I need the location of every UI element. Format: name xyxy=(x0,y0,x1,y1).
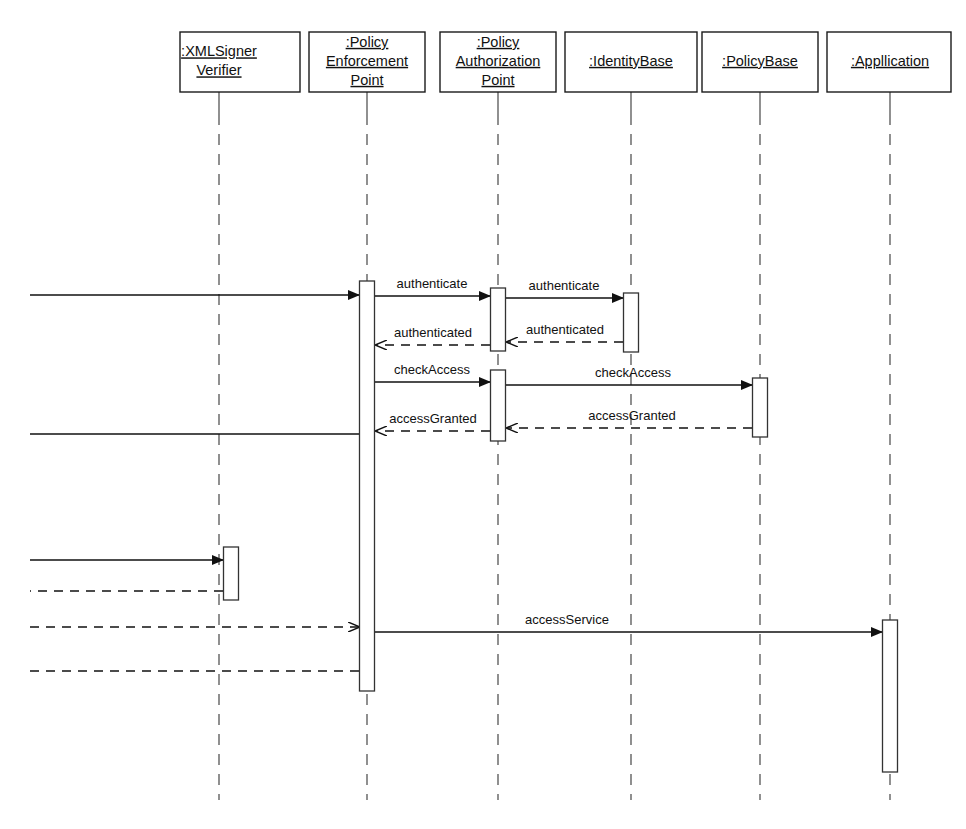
message-label-msg-accessgranted-2: accessGranted xyxy=(389,411,476,426)
participant-label-pep: Point xyxy=(350,72,383,88)
activation-bar-pep[interactable] xyxy=(360,281,375,691)
participant-application[interactable]: :Appllication xyxy=(827,32,951,92)
activation-bar-policybase[interactable] xyxy=(753,378,768,437)
participant-label-application: :Appllication xyxy=(851,53,929,69)
participant-label-pap: :Policy xyxy=(477,34,520,50)
message-msg-accessservice[interactable]: accessService xyxy=(375,612,882,632)
message-msg-authenticated-2[interactable]: authenticated xyxy=(376,325,490,345)
message-label-msg-authenticate-2: authenticate xyxy=(529,278,600,293)
activation-bar-pap[interactable] xyxy=(491,370,506,441)
participant-pep[interactable]: :PolicyEnforcementPoint xyxy=(309,32,425,92)
participant-label-policybase: :PolicyBase xyxy=(722,53,798,69)
message-label-msg-authenticated-1: authenticated xyxy=(526,322,604,337)
message-msg-authenticate-1[interactable]: authenticate xyxy=(375,276,490,296)
participant-identitybase[interactable]: :IdentityBase xyxy=(565,32,697,92)
message-label-msg-checkaccess-1: checkAccess xyxy=(394,362,470,377)
participant-xmlsigner[interactable]: :XMLSignerVerifier xyxy=(180,32,300,92)
message-msg-accessgranted-1[interactable]: accessGranted xyxy=(507,408,752,428)
participant-pap[interactable]: :PolicyAuthorizationPoint xyxy=(440,32,556,92)
messages-layer: authenticateauthenticateauthenticatedaut… xyxy=(30,276,882,671)
activations-layer xyxy=(224,281,898,772)
message-msg-authenticated-1[interactable]: authenticated xyxy=(507,322,623,342)
message-label-msg-accessgranted-1: accessGranted xyxy=(588,408,675,423)
activation-bar-xmlsigner[interactable] xyxy=(224,547,239,600)
lifelines-layer xyxy=(219,92,890,800)
sequence-diagram-svg: authenticateauthenticateauthenticatedaut… xyxy=(0,0,966,829)
message-msg-accessgranted-2[interactable]: accessGranted xyxy=(376,411,490,431)
message-label-msg-accessservice: accessService xyxy=(525,612,609,627)
participant-policybase[interactable]: :PolicyBase xyxy=(702,32,818,92)
participant-label-pap: Authorization xyxy=(456,53,541,69)
message-msg-checkaccess-2[interactable]: checkAccess xyxy=(506,365,752,385)
message-msg-authenticate-2[interactable]: authenticate xyxy=(506,278,623,298)
message-label-msg-authenticate-1: authenticate xyxy=(397,276,468,291)
participant-label-pap: Point xyxy=(481,72,514,88)
participant-label-xmlsigner: :XMLSigner xyxy=(181,43,257,59)
message-msg-checkaccess-1[interactable]: checkAccess xyxy=(375,362,490,382)
participant-boxes-layer: :XMLSignerVerifier:PolicyEnforcementPoin… xyxy=(180,32,951,92)
activation-bar-identitybase[interactable] xyxy=(624,293,639,352)
activation-bar-pap[interactable] xyxy=(491,288,506,351)
participant-label-identitybase: :IdentityBase xyxy=(589,53,673,69)
message-label-msg-authenticated-2: authenticated xyxy=(394,325,472,340)
activation-bar-application[interactable] xyxy=(883,620,898,772)
participant-label-pep: :Policy xyxy=(346,34,389,50)
participant-label-xmlsigner: Verifier xyxy=(196,62,241,78)
participant-label-pep: Enforcement xyxy=(326,53,408,69)
sequence-diagram-canvas: authenticateauthenticateauthenticatedaut… xyxy=(0,0,966,829)
message-label-msg-checkaccess-2: checkAccess xyxy=(595,365,671,380)
